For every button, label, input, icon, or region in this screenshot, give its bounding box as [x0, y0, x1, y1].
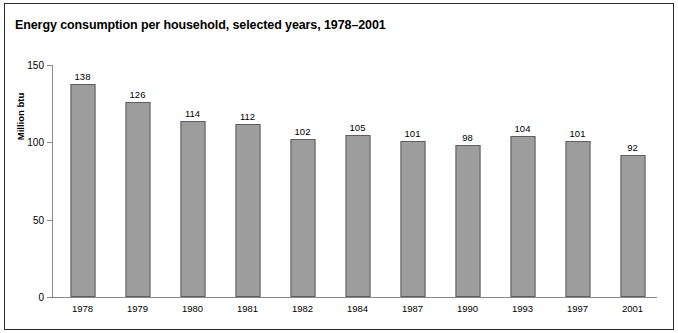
bar	[510, 136, 535, 297]
bar	[620, 155, 645, 297]
x-axis-category-label: 1980	[182, 303, 203, 314]
bar-value-label: 104	[515, 123, 531, 134]
y-axis-tick-label: 150	[27, 60, 44, 71]
bar-group: 981990	[440, 65, 495, 297]
bar-value-label: 101	[570, 128, 586, 139]
y-axis-tick-label: 50	[33, 214, 44, 225]
bar-group: 1011987	[385, 65, 440, 297]
bar	[235, 124, 260, 297]
x-axis-category-label: 1990	[457, 303, 478, 314]
bar-group: 1011997	[550, 65, 605, 297]
x-axis-category-label: 1981	[237, 303, 258, 314]
bar-value-label: 112	[240, 111, 255, 122]
chart-figure: Energy consumption per household, select…	[0, 0, 678, 333]
plot-area: 050100150 138197812619791141980112198110…	[52, 65, 657, 297]
bar-value-label: 101	[405, 128, 421, 139]
bar-group: 922001	[605, 65, 660, 297]
bar	[125, 102, 150, 297]
bar	[345, 135, 370, 297]
y-axis-title: Million btu	[14, 0, 28, 232]
bar	[455, 145, 480, 297]
y-axis-tick-mark	[47, 297, 52, 298]
bar-value-label: 92	[627, 142, 638, 153]
x-axis-category-label: 1982	[292, 303, 313, 314]
y-axis-line	[52, 65, 53, 297]
y-axis-tick-mark	[47, 65, 52, 66]
x-axis-category-label: 1997	[567, 303, 588, 314]
x-axis-category-label: 1978	[72, 303, 93, 314]
y-axis-title-label: Million btu	[16, 92, 27, 140]
x-axis-category-label: 1984	[347, 303, 368, 314]
bar-value-label: 102	[295, 126, 311, 137]
x-axis-line	[52, 297, 657, 298]
y-axis-tick-label: 100	[27, 137, 44, 148]
bar-value-label: 98	[462, 132, 473, 143]
bar-group: 1381978	[55, 65, 110, 297]
y-axis-tick-mark	[47, 220, 52, 221]
bar-value-label: 105	[350, 122, 366, 133]
bar-group: 1021982	[275, 65, 330, 297]
bar	[565, 141, 590, 297]
y-axis-tick-mark	[47, 142, 52, 143]
x-axis-category-label: 1979	[127, 303, 148, 314]
bar-group: 1051984	[330, 65, 385, 297]
bar-value-label: 126	[130, 89, 146, 100]
chart-title: Energy consumption per household, select…	[15, 18, 386, 32]
bar-group: 1041993	[495, 65, 550, 297]
bar	[180, 121, 205, 297]
bar-group: 1121981	[220, 65, 275, 297]
x-axis-category-label: 2001	[622, 303, 643, 314]
bar	[290, 139, 315, 297]
x-axis-category-label: 1993	[512, 303, 533, 314]
bar-group: 1261979	[110, 65, 165, 297]
y-axis-tick-label: 0	[38, 292, 44, 303]
bar-group: 1141980	[165, 65, 220, 297]
bar-value-label: 138	[75, 71, 91, 82]
bar-value-label: 114	[185, 108, 200, 119]
bar	[400, 141, 425, 297]
x-axis-category-label: 1987	[402, 303, 423, 314]
bar	[70, 84, 95, 297]
